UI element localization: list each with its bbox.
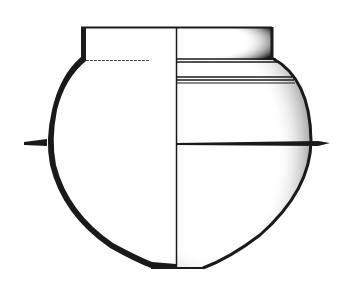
left-flange: [24, 139, 47, 146]
section-wall: [48, 27, 176, 268]
vessel-drawing: [0, 0, 352, 287]
vessel-svg: [0, 0, 352, 287]
elevation-shading: [176, 27, 316, 270]
